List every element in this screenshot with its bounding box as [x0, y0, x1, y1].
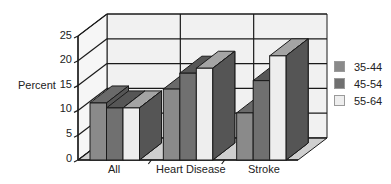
y-tick-20: 20 [52, 53, 72, 65]
legend-item-55-64: 55-64 [334, 92, 382, 109]
bar-heart-disease-55-64 [196, 68, 213, 160]
y-tick-0: 0 [52, 152, 72, 164]
bar-all-55-64 [123, 108, 140, 160]
legend-label: 35-44 [354, 61, 382, 73]
bar-stroke-55-64 [270, 56, 287, 160]
legend-item-35-44: 35-44 [334, 58, 382, 75]
bar-side [213, 51, 235, 160]
y-tick-15: 15 [52, 78, 72, 90]
bar-all-35-44 [90, 103, 107, 160]
legend-item-45-54: 45-54 [334, 75, 382, 92]
legend-swatch-55-64 [334, 95, 345, 106]
bar-side [286, 39, 308, 160]
y-tick-10: 10 [52, 102, 72, 114]
legend-label: 55-64 [354, 95, 382, 107]
y-tick-5: 5 [52, 127, 72, 139]
legend-label: 45-54 [354, 78, 382, 90]
bar-all-45-54 [107, 108, 124, 160]
y-tick-25: 25 [52, 29, 72, 41]
legend-swatch-45-54 [334, 78, 345, 89]
y-axis-label: Percent [18, 79, 56, 91]
x-category-heart-disease: Heart Disease [156, 163, 226, 175]
x-category-all: All [108, 163, 120, 175]
x-category-stroke: Stroke [248, 163, 280, 175]
bar-heart-disease-35-44 [163, 89, 180, 160]
bar-stroke-45-54 [253, 81, 270, 160]
bar-heart-disease-45-54 [180, 73, 197, 160]
bar-stroke-35-44 [237, 113, 254, 160]
y-tick [74, 160, 78, 162]
legend: 35-44 45-54 55-64 [334, 58, 382, 109]
legend-swatch-35-44 [334, 61, 345, 72]
